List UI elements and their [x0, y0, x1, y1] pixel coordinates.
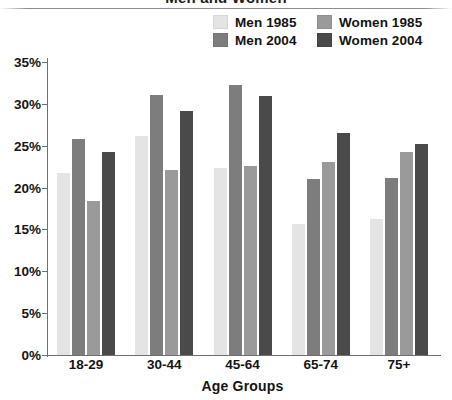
legend-item-women2004: Women 2004 — [317, 33, 452, 48]
bar-group — [125, 62, 203, 355]
bar — [385, 178, 398, 355]
bar — [322, 162, 335, 355]
legend-swatch-women2004 — [317, 33, 332, 47]
legend-label: Women 1985 — [339, 15, 422, 30]
legend-label: Men 1985 — [235, 15, 297, 30]
bar — [57, 173, 70, 355]
chart-title: Men and Women — [0, 0, 452, 6]
legend-swatch-men2004 — [213, 33, 228, 47]
legend-swatch-men1985 — [213, 15, 228, 29]
bar — [337, 133, 350, 355]
bar-group — [47, 62, 125, 355]
bar — [72, 139, 85, 355]
x-axis-category-label: 30-44 — [125, 357, 203, 377]
x-axis-category-label: 75+ — [360, 357, 438, 377]
x-axis-labels: 18-2930-4445-6465-7475+ — [47, 357, 438, 377]
bar — [102, 152, 115, 355]
y-axis-tick-label: 25% — [14, 138, 41, 153]
bar — [165, 170, 178, 355]
bar-group — [203, 62, 281, 355]
bar-group — [360, 62, 438, 355]
y-axis-tick-mark — [42, 355, 47, 356]
bar — [307, 179, 320, 355]
chart-legend: Men 1985Women 1985Men 2004Women 2004 — [213, 13, 452, 49]
x-axis-line — [46, 355, 441, 356]
y-axis-tick-label: 0% — [21, 348, 41, 363]
plot-area — [47, 62, 438, 355]
bar — [214, 168, 227, 355]
bar — [135, 136, 148, 355]
title-divider — [0, 8, 452, 9]
x-axis-category-label: 18-29 — [47, 357, 125, 377]
bar-groups — [47, 62, 438, 355]
x-axis-category-label: 65-74 — [282, 357, 360, 377]
legend-label: Men 2004 — [235, 33, 297, 48]
y-axis-tick-label: 35% — [14, 55, 41, 70]
bar — [229, 85, 242, 355]
bar-chart: Men and Women Men 1985Women 1985Men 2004… — [0, 0, 452, 400]
legend-item-men1985: Men 1985 — [213, 15, 317, 30]
bar — [370, 219, 383, 355]
y-axis-tick-label: 15% — [14, 222, 41, 237]
y-axis-tick-label: 30% — [14, 96, 41, 111]
legend-item-women1985: Women 1985 — [317, 15, 452, 30]
bar — [415, 144, 428, 355]
bar — [292, 224, 305, 355]
y-axis-tick-label: 5% — [21, 306, 41, 321]
bar — [259, 96, 272, 356]
y-axis-tick-label: 10% — [14, 264, 41, 279]
bar — [244, 166, 257, 355]
legend-label: Women 2004 — [339, 33, 422, 48]
legend-swatch-women1985 — [317, 15, 332, 29]
y-axis-tick-label: 20% — [14, 180, 41, 195]
bar — [150, 95, 163, 355]
y-axis-labels: 35%30%25%20%15%10%5%0% — [0, 62, 41, 355]
bar — [180, 111, 193, 355]
x-axis-category-label: 45-64 — [203, 357, 281, 377]
x-axis-title: Age Groups — [47, 378, 438, 394]
bar-group — [282, 62, 360, 355]
bar — [87, 201, 100, 355]
bar — [400, 152, 413, 355]
legend-item-men2004: Men 2004 — [213, 33, 317, 48]
